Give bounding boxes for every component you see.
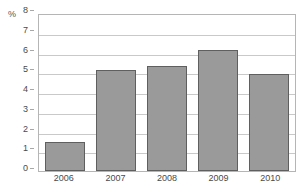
- x-tick-label: 2008: [145, 174, 189, 183]
- bar-chart: % 8 7 6 5 4 3 2 1 0: [0, 0, 306, 193]
- bar[interactable]: [96, 70, 136, 171]
- bars-layer: [39, 15, 295, 171]
- y-tick-label: 7: [23, 25, 28, 34]
- y-tick-mark: [30, 129, 34, 130]
- y-tick-label: 2: [23, 124, 28, 133]
- y-axis: 8 7 6 5 4 3 2 1 0: [0, 10, 34, 173]
- y-tick-mark: [30, 50, 34, 51]
- x-tick-label: 2006: [42, 174, 86, 183]
- y-tick-mark: [30, 69, 34, 70]
- plot-area: [38, 14, 296, 172]
- y-tick-label: 4: [23, 85, 28, 94]
- y-tick-label: 3: [23, 104, 28, 113]
- bar[interactable]: [147, 66, 187, 171]
- y-tick-label: 5: [23, 65, 28, 74]
- x-tick-label: 2010: [248, 174, 292, 183]
- y-tick-label: 6: [23, 45, 28, 54]
- bar[interactable]: [198, 50, 238, 171]
- x-axis: 2006 2007 2008 2009 2010: [38, 174, 296, 190]
- y-tick-mark: [30, 10, 34, 11]
- x-tick-label: 2009: [197, 174, 241, 183]
- y-tick-label: 1: [23, 144, 28, 153]
- y-tick-mark: [30, 109, 34, 110]
- y-tick-mark: [30, 89, 34, 90]
- y-tick-mark: [30, 30, 34, 31]
- y-tick-mark: [30, 168, 34, 169]
- bar[interactable]: [249, 74, 289, 172]
- bar[interactable]: [45, 142, 85, 171]
- y-tick-mark: [30, 148, 34, 149]
- y-tick-label: 8: [23, 6, 28, 15]
- x-tick-label: 2007: [93, 174, 137, 183]
- y-tick-label: 0: [23, 164, 28, 173]
